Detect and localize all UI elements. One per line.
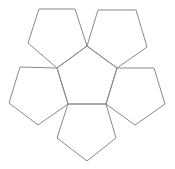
pentagon-right [106,68,165,125]
pentagon-left [9,67,68,125]
pentagon-top-left [28,9,87,68]
pentagon-net-diagram [0,0,175,169]
pentagon-top-right [87,10,147,68]
pentagon-center [57,46,117,104]
pentagon-bottom [57,104,116,161]
